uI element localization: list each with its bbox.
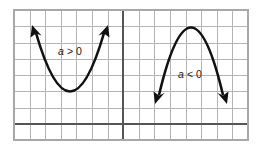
parabola-diagram: a>0 a<0 <box>0 0 261 151</box>
left-label-value: 0 <box>76 45 82 57</box>
left-label-variable: a <box>58 45 64 57</box>
diagram-canvas: a>0 a<0 <box>0 0 261 151</box>
right-label-value: 0 <box>196 68 202 80</box>
right-label-operator: < <box>187 68 193 80</box>
right-parabola-label: a<0 <box>178 68 202 80</box>
left-parabola-label: a>0 <box>58 45 82 57</box>
left-label-operator: > <box>67 45 73 57</box>
right-label-variable: a <box>178 68 184 80</box>
